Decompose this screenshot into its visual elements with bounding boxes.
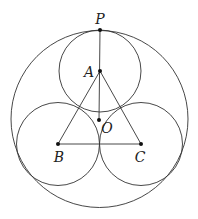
point-p bbox=[98, 28, 102, 32]
segment-po bbox=[99, 30, 100, 120]
label-c: C bbox=[135, 149, 146, 165]
diagram-svg: P A O B C bbox=[0, 0, 198, 219]
label-a: A bbox=[82, 64, 94, 80]
label-o: O bbox=[101, 120, 113, 136]
label-p: P bbox=[94, 11, 105, 27]
segment-ab bbox=[58, 71, 100, 144]
point-c bbox=[139, 142, 143, 146]
label-b: B bbox=[53, 149, 64, 165]
point-a bbox=[98, 69, 102, 73]
point-b bbox=[56, 142, 60, 146]
geometry-diagram: P A O B C bbox=[0, 0, 198, 219]
